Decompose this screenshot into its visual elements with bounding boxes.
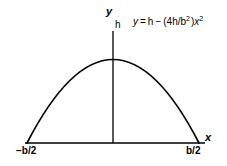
equation-minus: −	[155, 16, 161, 27]
equation-coefficient: 4h/b	[167, 16, 186, 27]
right-intercept-label: b/2	[186, 146, 200, 156]
equation-equals: =	[140, 16, 146, 27]
y-axis-label: y	[106, 6, 112, 17]
equation-annotation: y=h−(4h/b2)x2	[133, 17, 203, 27]
left-intercept-label: −b/2	[16, 146, 36, 156]
equation-variable-exponent: 2	[199, 15, 203, 22]
vertex-height-label: h	[115, 20, 121, 30]
x-axis-label: x	[205, 132, 211, 143]
parabola-figure: y h x −b/2 b/2 y=h−(4h/b2)x2	[0, 0, 227, 166]
equation-coefficient-exponent: 2	[186, 15, 190, 22]
equation-term-h: h	[148, 16, 154, 27]
equation-lhs: y	[133, 16, 138, 27]
